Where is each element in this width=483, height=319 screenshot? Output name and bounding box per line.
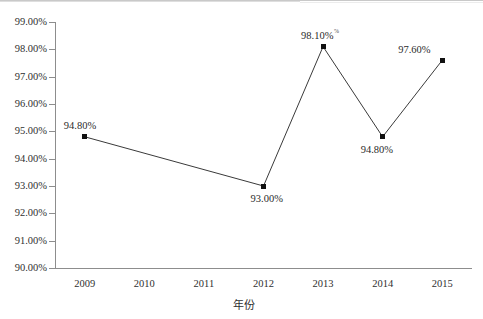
series-line bbox=[85, 47, 442, 186]
data-point-label: 94.80% bbox=[64, 120, 96, 131]
data-point-label: 98.10% bbox=[301, 30, 333, 41]
x-axis-title-text: 年份 bbox=[233, 299, 255, 311]
data-point-label-artifact: % bbox=[334, 28, 339, 34]
data-point-marker[interactable] bbox=[440, 58, 445, 63]
data-point-label: 93.00% bbox=[251, 193, 283, 204]
data-point-label: 94.80% bbox=[361, 144, 393, 155]
data-point-marker[interactable] bbox=[261, 184, 266, 189]
data-point-label: 97.60% bbox=[398, 44, 430, 55]
data-point-marker[interactable] bbox=[82, 134, 87, 139]
x-axis-title: 年份 bbox=[0, 296, 483, 312]
line-chart: 99.00%98.00%97.00%96.00%95.00%94.00%93.0… bbox=[0, 0, 483, 319]
data-point-marker[interactable] bbox=[321, 44, 326, 49]
data-point-marker[interactable] bbox=[380, 134, 385, 139]
